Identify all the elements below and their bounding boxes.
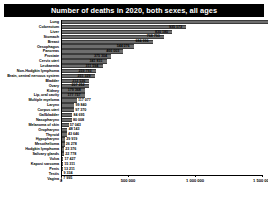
bar-category-label: Non-Hodgkin lymphoma	[0, 69, 61, 73]
bar-category-label: Cervix uteri	[0, 59, 61, 63]
bar-category-label: Oropharynx	[0, 128, 61, 132]
bar-row: Lip, oral cavity177 757	[0, 93, 268, 97]
bar-track: 26 278	[61, 142, 268, 146]
bar-track: 259 793	[61, 69, 268, 73]
bar	[61, 108, 74, 112]
bar-row: Hodgkin lymphoma23 376	[0, 147, 268, 151]
bar-row: Brain, central nervous system251 329	[0, 74, 268, 78]
bar-row: Penis13 211	[0, 167, 268, 171]
bar-row: Bladder212 536	[0, 79, 268, 83]
x-axis-tick	[195, 175, 196, 177]
y-axis-line	[61, 20, 62, 175]
bar-category-label: Testis	[0, 172, 61, 176]
bar-track: 830 180	[61, 30, 268, 34]
bar-category-label: Leukaemia	[0, 64, 61, 68]
bar-category-label: Brain, central nervous system	[0, 74, 61, 78]
bar-category-label: Corpus uteri	[0, 108, 61, 112]
bar-category-label: Hypopharynx	[0, 137, 61, 141]
bar-category-label: Ovary	[0, 84, 61, 88]
bar-value-label: 935 173	[169, 25, 182, 30]
bar	[61, 98, 77, 102]
bar-category-label: Prostate	[0, 54, 61, 58]
bar-track: 13 211	[61, 167, 268, 171]
bar-track: 97 370	[61, 108, 268, 112]
bar-track: 43 646	[61, 132, 268, 136]
bar-row: Non-Hodgkin lymphoma259 793	[0, 69, 268, 73]
x-axis-tick	[262, 175, 263, 177]
bar-row: Cervix uteri341 831	[0, 59, 268, 63]
bar-row: Gallbladder84 695	[0, 113, 268, 117]
bar-track: 57 043	[61, 123, 268, 127]
bar-track: 80 008	[61, 118, 268, 122]
bar-row: Multiple myeloma117 077	[0, 98, 268, 102]
page-title: Number of deaths in 2020, both sexes, al…	[51, 4, 217, 17]
bar-row: Breast684 996	[0, 40, 268, 44]
x-axis-tick-label: 1 500 000	[253, 178, 268, 183]
bar-row: Stomach768 793	[0, 35, 268, 39]
bar-category-label: Liver	[0, 30, 61, 34]
bar-value-label: 466 003	[106, 49, 119, 54]
bar	[61, 20, 268, 24]
bar-track: 177 757	[61, 93, 268, 97]
bar-row: Vulva17 427	[0, 157, 268, 161]
chart-title-bar: Number of deaths in 2020, both sexes, al…	[4, 4, 264, 17]
bar-track: 48 143	[61, 128, 268, 132]
bar-track: 544 076	[61, 44, 268, 48]
bar-category-label: Pancreas	[0, 49, 61, 53]
x-axis: 0500 0001 000 0001 500 000	[61, 175, 264, 195]
bar-row: Hypopharynx29 919	[0, 137, 268, 141]
bar-category-label: Stomach	[0, 35, 61, 39]
bar	[61, 123, 69, 127]
x-axis-tick	[128, 175, 129, 177]
bar-row: Larynx99 840	[0, 103, 268, 107]
bar-row: Mesothelioma26 278	[0, 142, 268, 146]
bar	[61, 103, 74, 107]
bar-track: 212 536	[61, 79, 268, 83]
bar-category-label: Penis	[0, 167, 61, 171]
bar-track: 84 695	[61, 113, 268, 117]
x-axis-tick-label: 0	[60, 178, 62, 183]
bar-track: 179 368	[61, 88, 268, 92]
bar-category-label: Lip, oral cavity	[0, 93, 61, 97]
bar-row: Ovary207 252	[0, 84, 268, 88]
bar-track: 1 796 144	[61, 20, 268, 24]
bar-track: 251 329	[61, 74, 268, 78]
bar-category-label: Kidney	[0, 89, 61, 93]
bar-track: 207 252	[61, 84, 268, 88]
bar-track: 22 778	[61, 152, 268, 156]
bar-track: 684 996	[61, 40, 268, 44]
bar-category-label: Salivary glands	[0, 152, 61, 156]
x-axis-tick-label: 500 000	[121, 178, 135, 183]
bar-category-label: Bladder	[0, 79, 61, 83]
bar-category-label: Thyroid	[0, 133, 61, 137]
bar-track: 768 793	[61, 35, 268, 39]
bar-row: Thyroid43 646	[0, 132, 268, 136]
bar-track: 15 311	[61, 162, 268, 166]
bar-category-label: Kaposi sarcoma	[0, 162, 61, 166]
x-axis-tick-label: 1 000 000	[186, 178, 204, 183]
chart-container: Number of deaths in 2020, both sexes, al…	[0, 0, 268, 197]
bar-category-label: Oesophagus	[0, 45, 61, 49]
bar-track: 311 594	[61, 64, 268, 68]
bar-category-label: Hodgkin lymphoma	[0, 147, 61, 151]
bar-category-label: Gallbladder	[0, 113, 61, 117]
bar-row: Kidney179 368	[0, 88, 268, 92]
bar-value-label: 768 793	[147, 34, 160, 39]
bar-row: Prostate375 304	[0, 54, 268, 58]
bar-category-label: Colorectum	[0, 25, 61, 29]
bar-track: 29 919	[61, 137, 268, 141]
bar-row: Liver830 180	[0, 30, 268, 34]
bar-category-label: Breast	[0, 40, 61, 44]
bar-track: 99 840	[61, 103, 268, 107]
bar-category-label: Mesothelioma	[0, 142, 61, 146]
bar-track: 466 003	[61, 49, 268, 53]
bar-category-label: Melanoma of skin	[0, 123, 61, 127]
bar-value-label: 684 996	[136, 39, 149, 44]
bar-row: Kaposi sarcoma15 311	[0, 162, 268, 166]
bar-row: Lung1 796 144	[0, 20, 268, 24]
bar-track: 17 427	[61, 157, 268, 161]
bar-row: Oropharynx48 143	[0, 128, 268, 132]
bar-track: 23 376	[61, 147, 268, 151]
x-axis-tick	[61, 175, 62, 177]
bar-row: Pancreas466 003	[0, 49, 268, 53]
